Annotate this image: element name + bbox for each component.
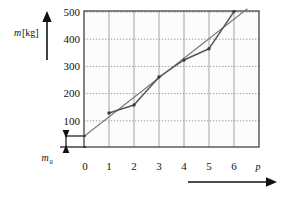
plot-area-background bbox=[84, 11, 259, 147]
data-point-p2 bbox=[132, 103, 135, 106]
data-point-p5 bbox=[207, 47, 210, 50]
y-axis-unit: [kg] bbox=[22, 27, 39, 38]
m0-label: m bbox=[41, 152, 48, 163]
y-tick-label-200: 200 bbox=[64, 87, 81, 99]
x-tick-label-2: 2 bbox=[131, 160, 137, 172]
chart-figure: 100 200 300 400 500 0 1 2 3 4 5 6 p m [k… bbox=[0, 0, 282, 199]
y-tick-label-100: 100 bbox=[64, 115, 81, 127]
x-axis-label: p bbox=[255, 161, 261, 172]
y-axis-label-group: m [kg] bbox=[14, 27, 39, 38]
x-tick-label-4: 4 bbox=[181, 160, 187, 172]
data-point-p6 bbox=[232, 10, 235, 13]
x-tick-label-3: 3 bbox=[156, 160, 162, 172]
x-tick-label-6: 6 bbox=[231, 160, 237, 172]
x-tick-label-5: 5 bbox=[206, 160, 212, 172]
data-point-p1 bbox=[107, 111, 110, 114]
y-tick-label-500: 500 bbox=[64, 6, 81, 18]
data-point-p3 bbox=[157, 75, 160, 78]
y-tick-label-400: 400 bbox=[64, 33, 81, 45]
x-tick-label-0: 0 bbox=[82, 160, 88, 172]
data-point-p4 bbox=[182, 58, 185, 61]
y-axis-label: m bbox=[14, 27, 21, 38]
y-tick-label-300: 300 bbox=[64, 60, 81, 72]
m0-subscript: 0 bbox=[49, 158, 52, 165]
x-tick-label-1: 1 bbox=[106, 160, 112, 172]
